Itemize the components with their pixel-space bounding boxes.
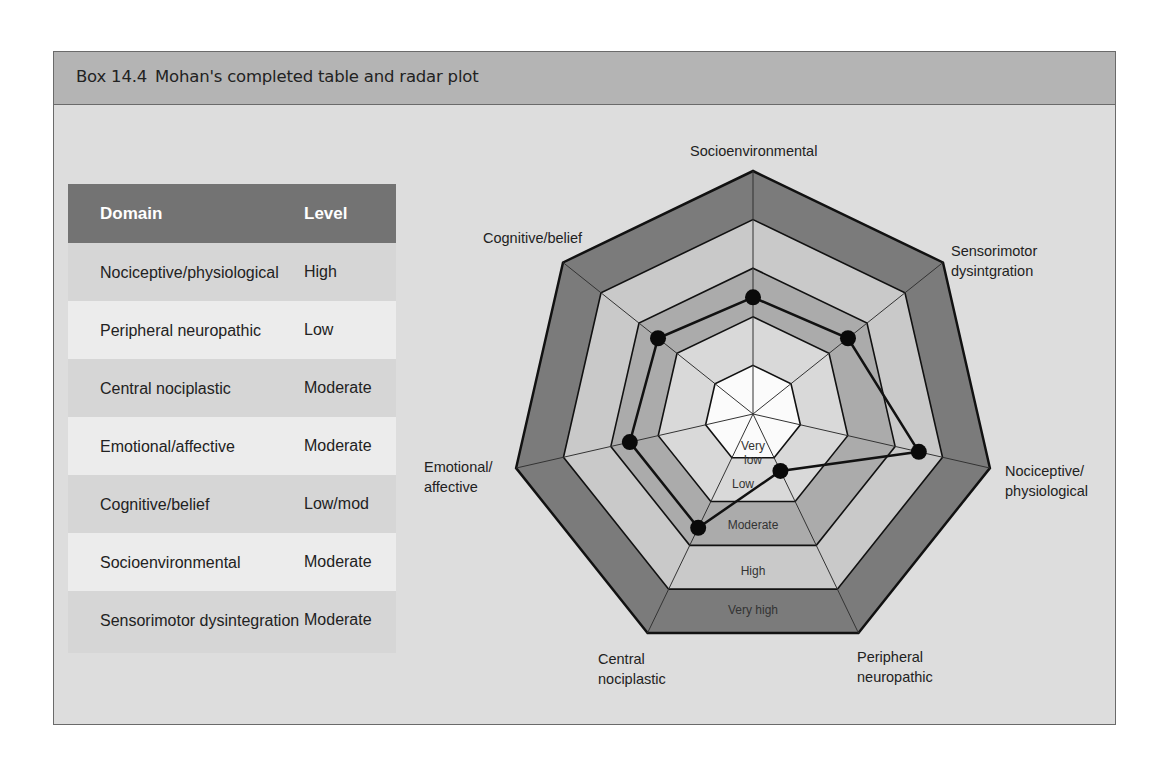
axis-label-line: Nociceptive/ [1005,461,1088,481]
axis-label-line: dysintgration [951,261,1037,281]
axis-label-emotional: Emotional/ affective [424,457,493,497]
data-point [650,330,666,346]
axis-label-line: Sensorimotor [951,241,1037,261]
ring-label-moderate: Moderate [728,518,779,532]
data-point [745,289,761,305]
axis-label-line: affective [424,477,493,497]
axis-label-cognitive: Cognitive/belief [483,228,582,248]
axis-label-central: Central nociplastic [598,649,666,689]
axis-label-nociceptive: Nociceptive/ physiological [1005,461,1088,501]
axis-label-line: nociplastic [598,669,666,689]
axis-label-line: Peripheral [857,647,933,667]
ring-label-very-low-2: low [744,453,762,467]
ring-label-very-high: Very high [728,603,778,617]
radar-chart: Very low Low Moderate High Very high [0,0,1175,776]
ring-label-high: High [741,564,766,578]
axis-label-line: neuropathic [857,667,933,687]
data-point [840,330,856,346]
axis-label-socioenvironmental: Socioenvironmental [690,141,817,161]
data-point [622,434,638,450]
data-point [772,463,788,479]
data-point [690,520,706,536]
axis-label-line: Emotional/ [424,457,493,477]
ring-label-low: Low [732,477,754,491]
data-point [911,444,927,460]
axis-label-line: Central [598,649,666,669]
axis-label-line: physiological [1005,481,1088,501]
axis-label-sensorimotor: Sensorimotor dysintgration [951,241,1037,281]
ring-label-very-low: Very [741,439,765,453]
axis-label-peripheral: Peripheral neuropathic [857,647,933,687]
